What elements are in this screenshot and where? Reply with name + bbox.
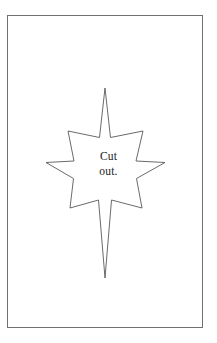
star-outline-path [46,88,165,278]
page-canvas: Cut out. [0,0,217,343]
cut-out-label: Cut out. [0,149,217,179]
cut-out-label-line-2: out. [0,164,217,179]
cut-out-label-line-1: Cut [0,149,217,164]
